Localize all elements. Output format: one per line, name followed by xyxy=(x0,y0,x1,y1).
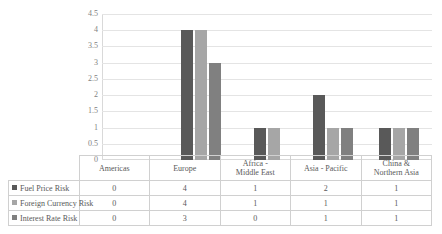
table-value-cell: 0 xyxy=(79,181,150,196)
plot-area: 4.543.532.521.510.50 xyxy=(0,14,442,160)
bar xyxy=(313,95,325,160)
legend-swatch-icon xyxy=(12,185,17,190)
table-value-cell: 0 xyxy=(79,211,150,226)
table-value-cell: 3 xyxy=(150,211,221,226)
y-axis-tick-label: 2 xyxy=(94,91,98,99)
table-row: Interest Rate Risk03011 xyxy=(9,211,432,226)
legend-swatch-icon xyxy=(12,215,17,220)
chart-data-table: AmericasEuropeAfrica -Middle EastAsia - … xyxy=(8,155,432,226)
cropped-chart-title xyxy=(22,0,422,7)
y-axis-tick-label: 3 xyxy=(94,59,98,67)
table-value-cell: 1 xyxy=(291,211,362,226)
category-header-cell: Americas xyxy=(79,156,150,181)
bar-group xyxy=(102,14,168,160)
category-header-cell: Africa -Middle East xyxy=(220,156,291,181)
category-header-cell: China &Northern Asia xyxy=(361,156,432,181)
y-axis-tick-label: 1 xyxy=(94,124,98,132)
bar xyxy=(195,30,207,160)
bar-group xyxy=(234,14,300,160)
table-header-row: AmericasEuropeAfrica -Middle EastAsia - … xyxy=(9,156,432,181)
table-row: Foreign Currency Risk04111 xyxy=(9,196,432,211)
table-value-cell: 4 xyxy=(150,196,221,211)
legend-item-2[interactable]: Interest Rate Risk xyxy=(9,211,80,226)
legend-swatch-icon xyxy=(12,200,17,205)
y-axis: 4.543.532.521.510.50 xyxy=(60,14,102,160)
data-table-body: AmericasEuropeAfrica -Middle EastAsia - … xyxy=(9,156,432,226)
table-value-cell: 2 xyxy=(291,181,362,196)
table-value-cell: 1 xyxy=(361,181,432,196)
table-row: Fuel Price Risk04121 xyxy=(9,181,432,196)
bar-group xyxy=(168,14,234,160)
category-header-cell: Europe xyxy=(150,156,221,181)
table-value-cell: 4 xyxy=(150,181,221,196)
table-value-cell: 1 xyxy=(361,196,432,211)
y-axis-tick-label: 4.5 xyxy=(88,10,98,18)
legend-label: Foreign Currency Risk xyxy=(20,199,93,208)
table-value-cell: 1 xyxy=(361,211,432,226)
table-value-cell: 1 xyxy=(220,181,291,196)
y-axis-tick-label: 2.5 xyxy=(88,75,98,83)
bar-group xyxy=(300,14,366,160)
table-value-cell: 0 xyxy=(220,211,291,226)
y-axis-tick-label: 3.5 xyxy=(88,42,98,50)
table-corner-cell xyxy=(9,156,80,181)
legend-item-1[interactable]: Foreign Currency Risk xyxy=(9,196,80,211)
bar-group xyxy=(366,14,432,160)
y-axis-tick-label: 4 xyxy=(94,26,98,34)
category-header-cell: Asia - Pacific xyxy=(291,156,362,181)
bar-groups xyxy=(102,14,432,160)
bar xyxy=(209,63,221,160)
table-value-cell: 1 xyxy=(220,196,291,211)
bar-chart-with-data-table: 4.543.532.521.510.50 AmericasEuropeAfric… xyxy=(0,0,442,234)
y-axis-tick-label: 1.5 xyxy=(88,107,98,115)
legend-label: Fuel Price Risk xyxy=(20,184,69,193)
table-value-cell: 1 xyxy=(291,196,362,211)
legend-item-0[interactable]: Fuel Price Risk xyxy=(9,181,80,196)
y-axis-tick-label: 0.5 xyxy=(88,140,98,148)
bar xyxy=(181,30,193,160)
legend-label: Interest Rate Risk xyxy=(20,214,77,223)
